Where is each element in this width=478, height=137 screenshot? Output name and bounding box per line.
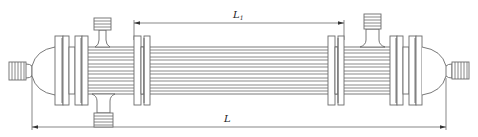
left-flange-pair-outer [55,36,75,105]
center-right-flange-pair [328,36,344,105]
right-top-nozzle [360,14,385,47]
left-end-nozzle [9,62,32,80]
left-top-nozzle [94,18,111,47]
arrow-left-icon [32,125,38,128]
dimension-l1: L1 [134,9,344,40]
heat-exchanger-diagram: L1 L [0,0,478,137]
left-hemispherical-head [32,47,55,95]
arrow-left-icon [134,21,140,24]
right-hemispherical-head [422,47,446,95]
left-bottom-nozzle [92,94,115,127]
label-l: L [223,113,231,124]
right-flange-pair-outer [409,36,422,105]
right-end-nozzle [446,62,469,79]
label-l1: L1 [232,9,243,21]
arrow-right-icon [440,125,446,128]
arrow-right-icon [338,21,344,24]
left-flange-pair-inner [75,36,88,105]
center-left-flange-pair [134,36,150,105]
right-flange-pair-inner [390,36,409,105]
